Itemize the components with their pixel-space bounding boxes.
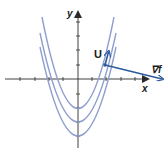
x-axis-label: x	[141, 83, 148, 94]
x-axis	[5, 77, 148, 81]
tangent-vector-label: U	[94, 48, 102, 60]
y-axis-label: y	[66, 8, 73, 19]
y-axis	[76, 12, 80, 148]
level-curves-diagram: y x U ∇f	[0, 0, 168, 150]
gradient-vector-label: ∇f	[151, 64, 163, 75]
point-of-tangency	[103, 63, 107, 67]
